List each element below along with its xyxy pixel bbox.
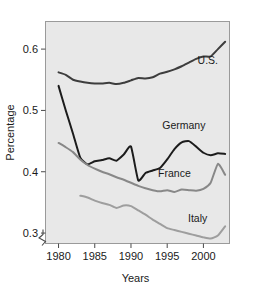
y-tick-label: 0.3 — [23, 227, 38, 239]
y-tick-label: 0.6 — [23, 43, 38, 55]
y-tick-label: 0.4 — [23, 166, 38, 178]
series-label-us: U.S. — [198, 54, 218, 66]
series-label-france: France — [158, 167, 191, 179]
chart-figure: 0.30.40.50.6 19801985199019952000 U.S.Ge… — [0, 0, 255, 294]
x-tick-label: 1985 — [83, 250, 107, 262]
x-axis-title: Years — [122, 272, 150, 284]
series-label-germany: Germany — [162, 119, 206, 131]
x-tick-label: 1995 — [155, 250, 179, 262]
y-tick-label: 0.5 — [23, 104, 38, 116]
series-label-italy: Italy — [188, 212, 208, 224]
x-tick-label: 1980 — [46, 250, 70, 262]
x-tick-label: 2000 — [191, 250, 215, 262]
x-tick-label: 1990 — [119, 250, 143, 262]
line-chart: 0.30.40.50.6 19801985199019952000 U.S.Ge… — [0, 0, 255, 294]
y-axis-title: Percentage — [4, 104, 16, 160]
